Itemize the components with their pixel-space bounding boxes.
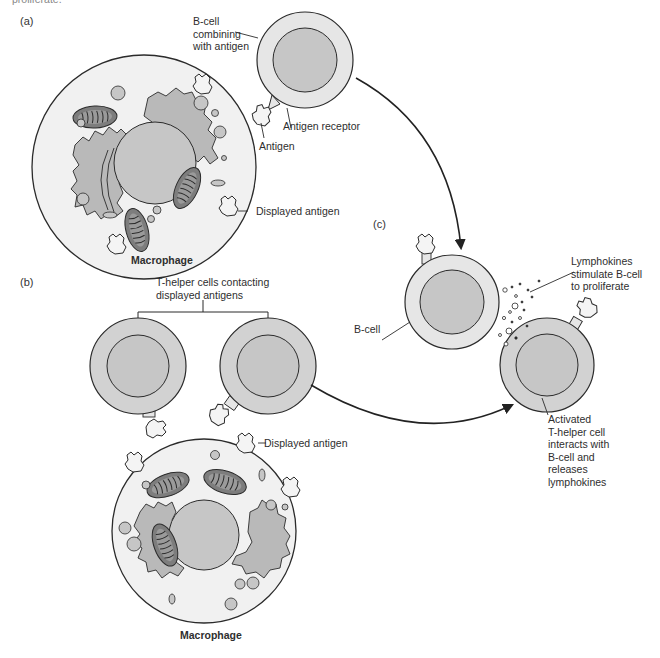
- displayed-antigen-label-b: Displayed antigen: [264, 437, 347, 450]
- lymphokines-label: Lymphokines stimulate B-cell to prolifer…: [571, 255, 642, 293]
- bcell-c: [382, 234, 499, 349]
- arrow-b-to-c: [311, 385, 512, 423]
- antigen-receptor-label: Antigen receptor: [283, 120, 360, 133]
- bcell-combining-label: B-cell combining with antigen: [193, 15, 249, 53]
- antigen-label: Antigen: [259, 140, 295, 153]
- panel-c-label: (c): [373, 218, 386, 230]
- displayed-antigen-label-a: Displayed antigen: [256, 205, 339, 218]
- macrophage-a: [32, 55, 256, 279]
- panel-b-label: (b): [20, 276, 33, 288]
- activated-thelper-label: Activated T-helper cell interacts with B…: [548, 413, 609, 488]
- thelper-contacting-label: T-helper cells contacting displayed anti…: [156, 276, 269, 301]
- caption-cutoff: proliferate.: [12, 0, 62, 6]
- panel-a-label: (a): [20, 15, 33, 27]
- arrow-a-to-c: [356, 78, 461, 248]
- thelper-right: [205, 318, 316, 428]
- bcell-label-c: B-cell: [354, 323, 380, 336]
- macrophage-label-a: Macrophage: [131, 254, 193, 267]
- activated-thelper-c: [500, 294, 600, 415]
- macrophage-b: [112, 433, 300, 623]
- immune-response-diagram: [0, 0, 660, 658]
- macrophage-label-b: Macrophage: [180, 629, 242, 642]
- thelper-left: [90, 318, 186, 438]
